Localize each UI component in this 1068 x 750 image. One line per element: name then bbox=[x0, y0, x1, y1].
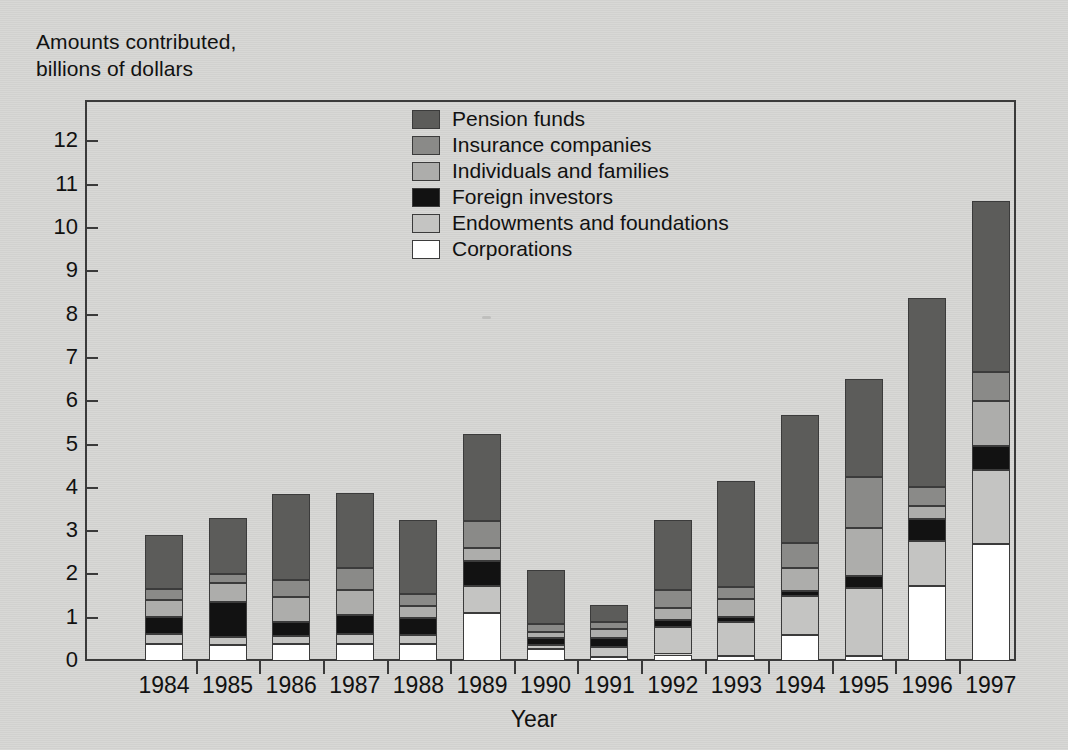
bar-segment-pension-funds bbox=[845, 379, 883, 477]
bar-segment-individuals-and-families bbox=[145, 600, 183, 617]
bar-segment-foreign-investors bbox=[209, 602, 247, 638]
bar-segment-pension-funds bbox=[972, 201, 1010, 372]
bar-segment-endowments-and-foundations bbox=[209, 637, 247, 644]
bar-segment-insurance-companies bbox=[908, 487, 946, 505]
y-axis-tick-label: 3 bbox=[38, 517, 78, 543]
y-axis-tick bbox=[85, 617, 98, 619]
legend-label: Individuals and families bbox=[452, 159, 669, 183]
legend-label: Pension funds bbox=[452, 107, 585, 131]
y-axis-tick bbox=[85, 270, 98, 272]
y-axis-tick-label: 8 bbox=[38, 301, 78, 327]
y-axis-tick-label: 4 bbox=[38, 474, 78, 500]
legend-swatch-icon bbox=[412, 162, 440, 181]
bar-1993 bbox=[717, 0, 755, 661]
chart-figure: Amounts contributed, billions of dollars… bbox=[0, 0, 1068, 750]
y-axis-tick bbox=[85, 400, 98, 402]
bar-segment-corporations bbox=[845, 656, 883, 661]
y-axis-tick-label: 2 bbox=[38, 560, 78, 586]
bar-segment-corporations bbox=[145, 644, 183, 661]
legend-item: Pension funds bbox=[412, 106, 729, 132]
bar-segment-insurance-companies bbox=[781, 543, 819, 568]
bar-segment-pension-funds bbox=[590, 605, 628, 623]
bar-segment-individuals-and-families bbox=[272, 597, 310, 622]
y-axis-tick-label: 6 bbox=[38, 387, 78, 413]
bar-segment-individuals-and-families bbox=[399, 606, 437, 618]
bar-segment-corporations bbox=[781, 635, 819, 661]
y-axis-tick bbox=[85, 184, 98, 186]
bar-segment-insurance-companies bbox=[463, 521, 501, 548]
bar-segment-endowments-and-foundations bbox=[654, 627, 692, 654]
bar-segment-foreign-investors bbox=[972, 446, 1010, 470]
legend-item: Insurance companies bbox=[412, 132, 729, 158]
legend-label: Insurance companies bbox=[452, 133, 652, 157]
y-axis-tick-label: 10 bbox=[38, 214, 78, 240]
bar-segment-insurance-companies bbox=[654, 590, 692, 607]
bar-segment-individuals-and-families bbox=[972, 401, 1010, 446]
legend-label: Foreign investors bbox=[452, 185, 613, 209]
y-axis-tick-label: 1 bbox=[38, 604, 78, 630]
bar-segment-endowments-and-foundations bbox=[908, 541, 946, 586]
bar-1992 bbox=[654, 0, 692, 661]
bar-segment-endowments-and-foundations bbox=[399, 635, 437, 644]
bar-segment-endowments-and-foundations bbox=[527, 645, 565, 649]
bar-1988 bbox=[399, 0, 437, 661]
bar-segment-foreign-investors bbox=[336, 615, 374, 634]
bar-1996 bbox=[908, 0, 946, 661]
legend-swatch-icon bbox=[412, 188, 440, 207]
bar-segment-pension-funds bbox=[209, 518, 247, 574]
legend-item: Corporations bbox=[412, 236, 729, 262]
bar-segment-pension-funds bbox=[654, 520, 692, 590]
bar-segment-corporations bbox=[908, 586, 946, 661]
y-axis-tick bbox=[85, 314, 98, 316]
chart-legend: Pension fundsInsurance companiesIndividu… bbox=[412, 106, 729, 262]
bar-segment-foreign-investors bbox=[845, 576, 883, 588]
bar-segment-pension-funds bbox=[399, 520, 437, 594]
legend-item: Endowments and foundations bbox=[412, 210, 729, 236]
bar-segment-individuals-and-families bbox=[463, 548, 501, 561]
y-axis-tick-label: 7 bbox=[38, 344, 78, 370]
bar-segment-foreign-investors bbox=[781, 591, 819, 596]
legend-item: Foreign investors bbox=[412, 184, 729, 210]
bar-segment-insurance-companies bbox=[399, 594, 437, 606]
bar-segment-pension-funds bbox=[336, 493, 374, 567]
bar-segment-corporations bbox=[527, 649, 565, 661]
bar-1994 bbox=[781, 0, 819, 661]
bar-segment-corporations bbox=[336, 644, 374, 661]
bar-segment-individuals-and-families bbox=[908, 506, 946, 519]
legend-swatch-icon bbox=[412, 240, 440, 259]
bar-segment-insurance-companies bbox=[590, 622, 628, 628]
bar-segment-pension-funds bbox=[781, 415, 819, 543]
bar-segment-endowments-and-foundations bbox=[272, 636, 310, 643]
bar-segment-endowments-and-foundations bbox=[781, 596, 819, 635]
bar-segment-foreign-investors bbox=[463, 561, 501, 586]
bar-segment-individuals-and-families bbox=[590, 629, 628, 639]
bar-segment-corporations bbox=[654, 655, 692, 661]
bar-segment-insurance-companies bbox=[272, 580, 310, 597]
bar-1986 bbox=[272, 0, 310, 661]
bar-segment-corporations bbox=[717, 656, 755, 661]
bar-segment-corporations bbox=[399, 644, 437, 661]
bar-1985 bbox=[209, 0, 247, 661]
bar-segment-corporations bbox=[272, 644, 310, 661]
bar-segment-insurance-companies bbox=[717, 587, 755, 599]
bar-segment-foreign-investors bbox=[399, 618, 437, 635]
bar-segment-corporations bbox=[209, 645, 247, 661]
bar-segment-endowments-and-foundations bbox=[145, 634, 183, 644]
y-axis-tick bbox=[85, 530, 98, 532]
bar-segment-pension-funds bbox=[463, 434, 501, 521]
bar-1997 bbox=[972, 0, 1010, 661]
bar-segment-individuals-and-families bbox=[781, 568, 819, 591]
bar-segment-endowments-and-foundations bbox=[972, 470, 1010, 544]
bar-1984 bbox=[145, 0, 183, 661]
bar-segment-insurance-companies bbox=[336, 568, 374, 590]
y-axis-tick bbox=[85, 357, 98, 359]
bar-segment-endowments-and-foundations bbox=[463, 586, 501, 613]
bar-segment-pension-funds bbox=[908, 298, 946, 487]
bar-segment-individuals-and-families bbox=[527, 632, 565, 638]
bar-segment-pension-funds bbox=[717, 481, 755, 586]
y-axis-tick bbox=[85, 444, 98, 446]
legend-item: Individuals and families bbox=[412, 158, 729, 184]
bar-1987 bbox=[336, 0, 374, 661]
bar-segment-corporations bbox=[463, 613, 501, 661]
bar-segment-foreign-investors bbox=[272, 622, 310, 636]
